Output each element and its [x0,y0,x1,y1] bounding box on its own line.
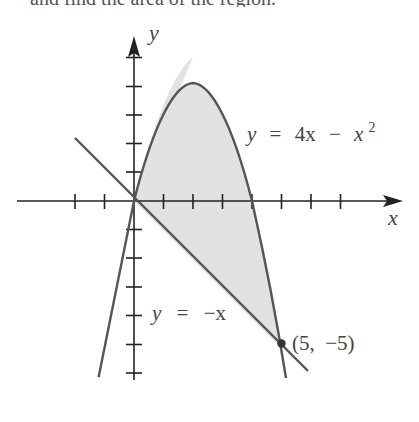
line-label: y = −x [150,301,227,325]
y-axis-label: y [147,20,159,45]
y-axis [126,44,142,380]
parabola-label: y = 4x − x 2 [245,120,376,146]
region-graph: y x y = 4x − x 2 y = −x (5, −5) [0,0,419,422]
intersection-label: (5, −5) [292,331,355,355]
intersection-point-5-neg5 [277,339,285,347]
x-axis-label: x [387,205,398,230]
